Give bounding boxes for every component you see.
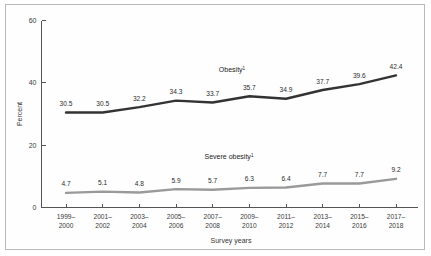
x-axis-tick-label: 2017–2018	[387, 213, 406, 230]
data-point-label: 34.3	[170, 88, 183, 95]
y-axis-tick-label: 20	[29, 142, 37, 149]
data-value-labels: 30.530.532.234.333.735.734.937.739.642.4…	[60, 63, 403, 187]
series-label-severe-obesity: Severe obesity1	[205, 153, 254, 162]
data-point-label: 32.2	[133, 95, 146, 102]
data-point-label: 5.7	[208, 177, 217, 184]
x-axis: 1999–20002001–20022003–20042005–20062007…	[42, 204, 419, 230]
y-axis-tick-label: 60	[29, 17, 37, 24]
data-point-label: 5.9	[171, 177, 180, 184]
data-point-label: 4.7	[61, 180, 70, 187]
y-axis-tick-label: 40	[29, 79, 37, 86]
y-axis-title: Percent	[16, 102, 23, 126]
series-label-obesity: Obesity1	[219, 66, 246, 75]
data-point-label: 6.3	[245, 175, 254, 182]
data-point-label: 37.7	[316, 78, 329, 85]
y-axis: 0204060	[29, 17, 46, 211]
data-point-label: 7.7	[318, 171, 327, 178]
data-point-label: 34.9	[280, 86, 293, 93]
x-axis-tick-label: 2007–2008	[203, 213, 222, 230]
data-point-label: 35.7	[243, 84, 256, 91]
x-axis-tick-label: 1999–2000	[57, 213, 76, 230]
series-annotations: Obesity1Severe obesity1	[205, 66, 254, 162]
y-axis-tick-label: 0	[33, 204, 37, 211]
x-axis-tick-label: 2009–2010	[240, 213, 259, 230]
data-point-label: 9.2	[391, 166, 400, 173]
series-lines	[66, 75, 396, 193]
series-line-obesity	[66, 75, 396, 112]
data-point-label: 33.7	[206, 90, 219, 97]
data-point-label: 6.4	[281, 175, 290, 182]
data-point-label: 30.5	[96, 100, 109, 107]
data-point-label: 39.6	[353, 72, 366, 79]
chart-screenshot: 0204060 1999–20002001–20022003–20042005–…	[0, 0, 431, 256]
x-axis-title: Survey years	[211, 237, 252, 245]
series-line-severe-obesity	[66, 179, 396, 193]
x-axis-tick-label: 2005–2006	[167, 213, 186, 230]
data-point-label: 4.8	[135, 180, 144, 187]
line-chart: 0204060 1999–20002001–20022003–20042005–…	[0, 0, 431, 256]
data-point-label: 5.1	[98, 179, 107, 186]
data-point-label: 7.7	[355, 171, 364, 178]
x-axis-tick-label: 2015–2016	[350, 213, 369, 230]
x-axis-tick-label: 2001–2002	[93, 213, 112, 230]
x-axis-tick-label: 2013–2014	[313, 213, 332, 230]
data-point-label: 30.5	[60, 100, 73, 107]
data-point-label: 42.4	[390, 63, 403, 70]
x-axis-tick-label: 2011–2012	[277, 213, 295, 230]
x-axis-tick-label: 2003–2004	[130, 213, 149, 230]
